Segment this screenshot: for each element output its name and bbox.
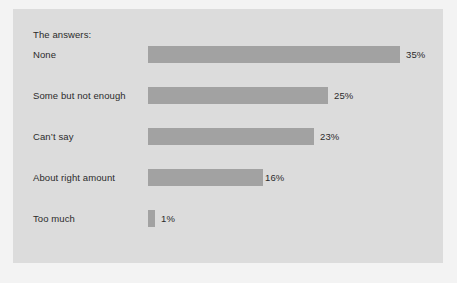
- bar-category-label: Some but not enough: [33, 90, 126, 101]
- bar-value-label: 35%: [406, 49, 425, 60]
- bar-row: Too much1%: [13, 207, 443, 231]
- plot-area: None35%Some but not enough25%Can’t say23…: [13, 9, 443, 263]
- bar-value-label: 16%: [265, 172, 284, 183]
- chart-figure: The answers: None35%Some but not enough2…: [0, 0, 457, 283]
- chart-panel: The answers: None35%Some but not enough2…: [13, 9, 443, 263]
- bar-row: Some but not enough25%: [13, 84, 443, 108]
- bar-value-label: 23%: [320, 131, 339, 142]
- bar-row: About right amount16%: [13, 166, 443, 190]
- bar-value-label: 25%: [334, 90, 353, 101]
- bar-rect: [148, 87, 328, 104]
- bar-category-label: None: [33, 49, 56, 60]
- bar-rect: [148, 128, 314, 145]
- bar-rect: [148, 169, 263, 186]
- bar-value-label: 1%: [161, 213, 175, 224]
- bar-category-label: Can’t say: [33, 131, 74, 142]
- bar-row: None35%: [13, 43, 443, 67]
- bar-category-label: About right amount: [33, 172, 115, 183]
- bar-row: Can’t say23%: [13, 125, 443, 149]
- bar-rect: [148, 210, 155, 227]
- bar-rect: [148, 46, 400, 63]
- bar-category-label: Too much: [33, 213, 75, 224]
